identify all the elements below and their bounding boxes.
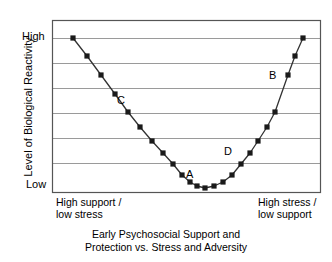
data-point-marker (160, 150, 165, 155)
plot-border (53, 21, 321, 193)
data-point-marker (300, 35, 305, 40)
data-point-marker (229, 172, 234, 177)
data-point-marker (285, 72, 290, 77)
data-point-marker (70, 35, 75, 40)
annotation-b: B (269, 69, 276, 81)
data-point-marker (202, 185, 207, 190)
u-curve-plot (0, 0, 332, 262)
chart-figure: Level of Biological Reactivity High Low … (0, 0, 332, 262)
annotation-d: D (224, 145, 232, 157)
y-tick-label-low: Low (26, 178, 46, 190)
data-point-marker (220, 179, 225, 184)
caption-line2: Protection vs. Stress and Adversity (0, 241, 332, 253)
x-axis-label-left-line1: High support / (56, 196, 121, 208)
data-point-marker (137, 124, 142, 129)
y-tick-label-high: High (22, 30, 45, 42)
data-point-marker (247, 150, 252, 155)
annotation-a: A (186, 168, 193, 180)
data-point-marker (149, 138, 154, 143)
x-axis-label-left-line2: low stress (56, 208, 103, 220)
data-point-marker (238, 161, 243, 166)
data-point-marker (98, 72, 103, 77)
y-axis-title: Level of Biological Reactivity (22, 22, 34, 192)
data-point-marker (187, 179, 192, 184)
x-axis-label-right-line1: High stress / (258, 196, 316, 208)
data-point-marker (194, 183, 199, 188)
data-point-marker (179, 172, 184, 177)
data-point-marker (272, 109, 277, 114)
caption-line1: Early Psychosocial Support and (0, 228, 332, 240)
data-point-marker (84, 53, 89, 58)
data-point-marker (211, 183, 216, 188)
data-point-marker (255, 138, 260, 143)
x-axis-label-right-line2: low support (258, 208, 312, 220)
data-point-marker (125, 109, 130, 114)
data-point-marker (170, 161, 175, 166)
data-point-marker (292, 53, 297, 58)
annotation-c: C (117, 94, 125, 106)
data-point-marker (264, 124, 269, 129)
